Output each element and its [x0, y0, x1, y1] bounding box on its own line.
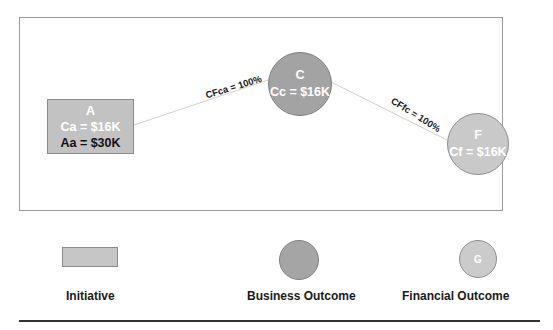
legend-label-financial-outcome: Financial Outcome	[402, 289, 509, 303]
legend-financial-outcome-swatch: G	[459, 240, 497, 278]
bottom-divider	[19, 320, 540, 322]
node-f-cost: Cf = $16K	[449, 144, 506, 161]
node-financial-outcome-f: F Cf = $16K	[447, 113, 509, 175]
node-c-cost: Cc = $16K	[270, 84, 330, 101]
node-initiative-a: A Ca = $16K Aa = $30K	[47, 99, 134, 154]
node-a-cost: Ca = $16K	[60, 119, 120, 135]
node-f-title: F	[474, 127, 482, 144]
legend-financial-glyph: G	[474, 254, 482, 265]
legend-label-business-outcome: Business Outcome	[247, 289, 356, 303]
node-business-outcome-c: C Cc = $16K	[268, 52, 332, 116]
node-c-title: C	[295, 67, 304, 84]
node-a-title: A	[86, 103, 95, 119]
node-a-amount: Aa = $30K	[60, 135, 120, 151]
legend-initiative-swatch	[62, 247, 118, 267]
legend-label-initiative: Initiative	[66, 289, 115, 303]
legend-business-outcome-swatch	[279, 240, 319, 280]
